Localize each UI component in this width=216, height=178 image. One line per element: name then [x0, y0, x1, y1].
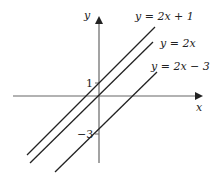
equation-label-2x-plus-1: y = 2x + 1 [134, 10, 194, 23]
line-y-2x [30, 42, 153, 163]
equation-label-2x: y = 2x [159, 37, 196, 50]
y-tick-label-neg3: −3 [77, 128, 93, 141]
graph-diagram: y x 1 −3 y = 2x + 1 y = 2x y = 2x − 3 [0, 0, 216, 178]
y-tick-label-1: 1 [86, 77, 93, 90]
coordinate-plane: y x 1 −3 y = 2x + 1 y = 2x y = 2x − 3 [0, 0, 216, 178]
y-axis-label: y [83, 9, 91, 22]
x-axis-label: x [196, 101, 203, 114]
equation-label-2x-minus-3: y = 2x − 3 [150, 60, 210, 73]
line-y-2x-minus-3 [55, 72, 157, 172]
